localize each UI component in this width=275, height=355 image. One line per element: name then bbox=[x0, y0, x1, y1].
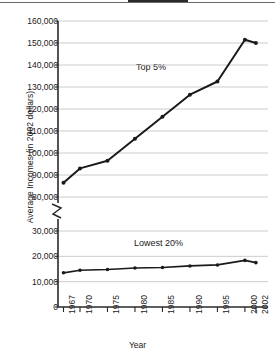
plot-area bbox=[0, 0, 275, 355]
chart-figure: Average Incomes (in 2002 dollars) Year 8… bbox=[0, 0, 275, 355]
